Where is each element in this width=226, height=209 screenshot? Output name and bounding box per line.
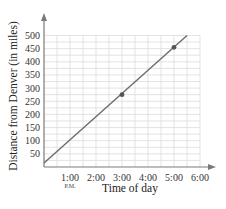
y-axis-title: Distance from Denver (in miles) [7,21,20,171]
x-axis-title: Time of day [102,182,158,195]
x-tick-label: 5:00 [165,172,183,183]
distance-time-chart: 50100150200250300350400450500 1:002:003:… [0,0,226,209]
y-tick-label: 400 [25,56,40,67]
distance-line [44,36,187,164]
y-tick-label: 150 [25,122,40,133]
y-tick-label: 100 [25,135,40,146]
x-axis-arrow-icon [208,164,216,170]
y-tick-labels: 50100150200250300350400450500 [25,30,40,159]
x-tick-label: 6:00 [191,172,209,183]
grid [44,36,200,168]
y-axis-arrow-icon [41,13,47,21]
data-series [44,36,187,164]
y-tick-label: 250 [25,96,40,107]
y-tick-label: 500 [25,30,40,41]
y-tick-label: 200 [25,109,40,120]
y-tick-label: 50 [30,148,40,159]
data-point [172,45,177,50]
y-tick-label: 350 [25,69,40,80]
y-tick-label: 300 [25,83,40,94]
x-tick-label: 1:00 [61,172,79,183]
data-point [120,92,125,97]
y-tick-label: 450 [25,43,40,54]
x-tick-sublabel: P.M. [64,183,76,189]
axes [41,13,216,170]
